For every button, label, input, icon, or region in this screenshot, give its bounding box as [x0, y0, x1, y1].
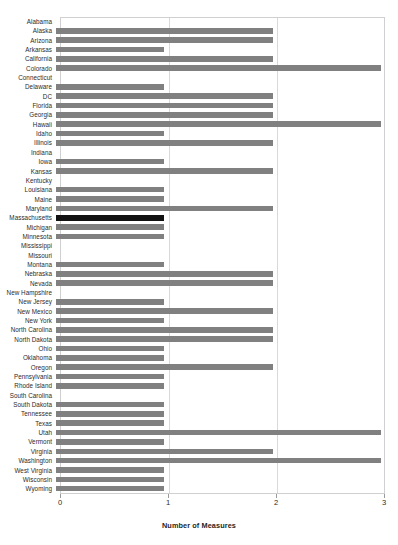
bar: [56, 224, 164, 230]
category-label: Michigan: [0, 223, 56, 232]
category-label: North Carolina: [0, 325, 56, 334]
bar-track: [56, 167, 398, 176]
category-label: Wyoming: [0, 484, 56, 493]
bar-row: Virginia: [0, 447, 398, 456]
bar-chart: AlabamaAlaskaArizonaArkansasCaliforniaCo…: [0, 0, 398, 545]
bar-track: [56, 325, 398, 334]
bar-row: Oregon: [0, 363, 398, 372]
category-label: Texas: [0, 419, 56, 428]
category-label: Montana: [0, 260, 56, 269]
bar-row: New Jersey: [0, 297, 398, 306]
bar-row: Arizona: [0, 36, 398, 45]
bar-row: Maryland: [0, 204, 398, 213]
bar-row: Alaska: [0, 26, 398, 35]
category-label: North Dakota: [0, 335, 56, 344]
bar-row: Georgia: [0, 110, 398, 119]
bar-track: [56, 204, 398, 213]
category-label: DC: [0, 92, 56, 101]
category-label: New Jersey: [0, 297, 56, 306]
bar-track: [56, 316, 398, 325]
category-label: Delaware: [0, 82, 56, 91]
bar: [56, 318, 164, 324]
bar-track: [56, 484, 398, 493]
bar: [56, 411, 164, 417]
bar-row: Louisiana: [0, 185, 398, 194]
bar-track: [56, 344, 398, 353]
bar-row: Idaho: [0, 129, 398, 138]
category-label: Alaska: [0, 26, 56, 35]
bar: [56, 299, 164, 305]
bar-track: [56, 241, 398, 250]
bar-row: Texas: [0, 419, 398, 428]
bar-track: [56, 232, 398, 241]
category-label: Arizona: [0, 36, 56, 45]
category-label: Louisiana: [0, 185, 56, 194]
bar: [56, 355, 164, 361]
bar-track: [56, 437, 398, 446]
bar-track: [56, 157, 398, 166]
bar: [56, 308, 273, 314]
bar-track: [56, 129, 398, 138]
bar-track: [56, 120, 398, 129]
bar-track: [56, 372, 398, 381]
bar: [56, 280, 273, 286]
category-label: West Virginia: [0, 466, 56, 475]
bar-track: [56, 466, 398, 475]
category-label: Virginia: [0, 447, 56, 456]
category-label: Missouri: [0, 251, 56, 260]
category-label: Nebraska: [0, 269, 56, 278]
bar-track: [56, 223, 398, 232]
bar-track: [56, 17, 398, 26]
bar-row: Colorado: [0, 64, 398, 73]
category-label: Florida: [0, 101, 56, 110]
bar: [56, 206, 273, 212]
bar-row: Illinois: [0, 138, 398, 147]
category-label: Oklahoma: [0, 353, 56, 362]
bar-row: Tennessee: [0, 409, 398, 418]
category-label: Kentucky: [0, 176, 56, 185]
category-label: Nevada: [0, 279, 56, 288]
bar-track: [56, 297, 398, 306]
category-label: Alabama: [0, 17, 56, 26]
bar-row: Montana: [0, 260, 398, 269]
category-label: Wisconsin: [0, 475, 56, 484]
bar: [56, 187, 164, 193]
bar-row: New Hampshire: [0, 288, 398, 297]
bar-row: Florida: [0, 101, 398, 110]
bar: [56, 47, 164, 53]
bar-rows: AlabamaAlaskaArizonaArkansasCaliforniaCo…: [0, 17, 398, 494]
category-label: Illinois: [0, 138, 56, 147]
bar-row: Arkansas: [0, 45, 398, 54]
bar: [56, 65, 381, 71]
bar: [56, 196, 164, 202]
category-label: Arkansas: [0, 45, 56, 54]
bar-track: [56, 148, 398, 157]
bar-track: [56, 260, 398, 269]
bar-row: Alabama: [0, 17, 398, 26]
bar-track: [56, 176, 398, 185]
bar-track: [56, 36, 398, 45]
bar-row: Missouri: [0, 251, 398, 260]
bar-row: Iowa: [0, 157, 398, 166]
bar-row: Vermont: [0, 437, 398, 446]
category-label: Pennsylvania: [0, 372, 56, 381]
bar-track: [56, 307, 398, 316]
bar-row: Kentucky: [0, 176, 398, 185]
x-axis-title: Number of Measures: [0, 521, 398, 530]
bar-track: [56, 213, 398, 222]
bar: [56, 383, 164, 389]
bar-row: South Dakota: [0, 400, 398, 409]
bar-track: [56, 64, 398, 73]
bar-track: [56, 54, 398, 63]
bar-row: Ohio: [0, 344, 398, 353]
bar-row: Connecticut: [0, 73, 398, 82]
bar-track: [56, 353, 398, 362]
bar: [56, 103, 273, 109]
bar: [56, 93, 273, 99]
category-label: Indiana: [0, 148, 56, 157]
bar: [56, 458, 381, 464]
category-label: Vermont: [0, 437, 56, 446]
bar: [56, 439, 164, 445]
bar: [56, 56, 273, 62]
bar: [56, 467, 164, 473]
